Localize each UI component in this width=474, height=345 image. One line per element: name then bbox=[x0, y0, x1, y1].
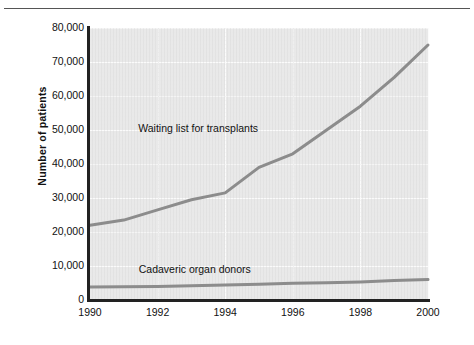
y-tick-label: 10,000 bbox=[6, 260, 84, 271]
y-tick-label: 50,000 bbox=[6, 124, 84, 135]
series-lines bbox=[90, 28, 428, 300]
x-tick-label: 1990 bbox=[60, 307, 120, 318]
y-tick-label: 40,000 bbox=[6, 158, 84, 169]
series-annotation: Cadaveric organ donors bbox=[139, 263, 251, 275]
x-axis-line bbox=[87, 299, 430, 302]
x-tick-label: 1998 bbox=[330, 307, 390, 318]
y-tick-label: 60,000 bbox=[6, 90, 84, 101]
series-annotation: Waiting list for transplants bbox=[138, 122, 258, 134]
series-line bbox=[90, 45, 428, 225]
chart-figure: Number of patients 010,00020,00030,00040… bbox=[0, 0, 474, 345]
plot-area bbox=[90, 28, 428, 300]
y-tick-label: 0 bbox=[6, 294, 84, 305]
x-tick-label: 2000 bbox=[398, 307, 458, 318]
gridline-vertical bbox=[428, 28, 429, 300]
figure-top-rule bbox=[4, 8, 470, 9]
y-tick-label: 30,000 bbox=[6, 192, 84, 203]
x-tick-label: 1992 bbox=[128, 307, 188, 318]
x-tick-label: 1996 bbox=[263, 307, 323, 318]
y-tick-label: 70,000 bbox=[6, 56, 84, 67]
y-axis-line bbox=[87, 26, 90, 302]
y-tick-label: 80,000 bbox=[6, 22, 84, 33]
y-tick-label: 20,000 bbox=[6, 226, 84, 237]
series-line bbox=[90, 280, 428, 287]
x-tick-label: 1994 bbox=[195, 307, 255, 318]
y-axis-title: Number of patients bbox=[36, 66, 48, 206]
